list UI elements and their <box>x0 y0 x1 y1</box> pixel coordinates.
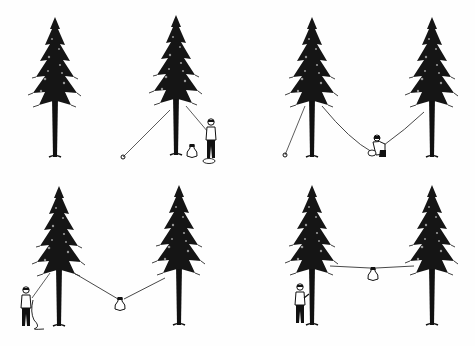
panel-step-1 <box>28 15 216 164</box>
panel-step-4 <box>285 185 458 325</box>
panel-step-2 <box>283 17 458 157</box>
bear-bag-hanging-illustration <box>0 0 475 346</box>
panel-step-3 <box>21 185 205 329</box>
